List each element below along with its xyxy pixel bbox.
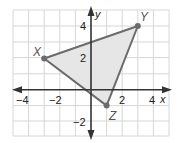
y-axis-up-arrow-icon xyxy=(88,6,95,16)
x-axis-label: x xyxy=(159,93,166,105)
vertex-z-dot xyxy=(104,103,110,109)
y-tick-neg2: −2 xyxy=(73,116,86,128)
x-tick-2: 2 xyxy=(119,94,125,106)
x-tick-4: 4 xyxy=(149,94,155,106)
vertex-x-label: X xyxy=(32,45,42,59)
vertex-y-label: Y xyxy=(140,10,149,24)
vertex-z-label: Z xyxy=(108,109,117,123)
coordinate-plane: y x −4 −2 2 4 4 2 −2 X Y Z xyxy=(0,0,179,143)
y-axis-down-arrow-icon xyxy=(88,130,95,140)
x-tick-neg4: −4 xyxy=(16,94,29,106)
vertex-x-dot xyxy=(41,56,47,62)
y-tick-4: 4 xyxy=(80,20,86,32)
x-tick-neg2: −2 xyxy=(49,94,62,106)
y-tick-2: 2 xyxy=(80,52,86,64)
